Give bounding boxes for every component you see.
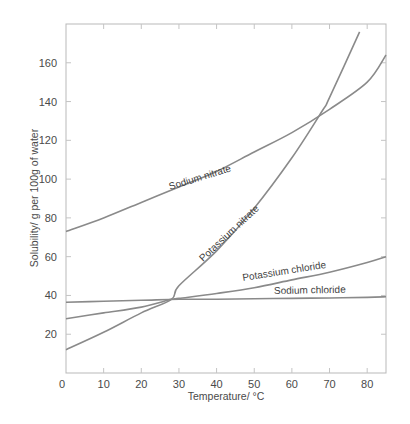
x-tick-label: 50 <box>248 378 260 390</box>
plot-border <box>66 24 386 373</box>
curves <box>66 32 386 350</box>
solubility-chart: 01020304050607080 20406080100120140160 T… <box>0 0 410 424</box>
x-tick-label: 60 <box>286 378 298 390</box>
label-potassium-chloride: Potassium chloride <box>242 259 328 283</box>
x-tick-label: 30 <box>173 378 185 390</box>
curve-potassium-nitrate <box>66 32 360 350</box>
y-tick-label: 80 <box>45 212 57 224</box>
y-tick-label: 120 <box>39 134 57 146</box>
y-axis-label: Solubility/ g per 100g of water <box>28 128 40 267</box>
x-tick-label: 0 <box>59 378 65 390</box>
x-axis-ticks: 01020304050607080 <box>59 24 373 390</box>
x-tick-label: 20 <box>135 378 147 390</box>
y-tick-label: 60 <box>45 251 57 263</box>
curve-sodium-nitrate <box>66 55 386 232</box>
x-axis-label: Temperature/ °C <box>188 390 265 402</box>
y-tick-label: 100 <box>39 173 57 185</box>
x-tick-label: 70 <box>323 378 335 390</box>
label-sodium-nitrate: Sodium nitrate <box>167 162 232 191</box>
y-tick-label: 20 <box>45 328 57 340</box>
label-potassium-nitrate: Potassium nitrate <box>197 202 261 263</box>
label-sodium-chloride: Sodium chloride <box>274 284 346 296</box>
curve-sodium-chloride <box>66 297 386 302</box>
y-tick-label: 160 <box>39 57 57 69</box>
plot-frame <box>66 24 386 373</box>
x-tick-label: 10 <box>98 378 110 390</box>
y-tick-label: 40 <box>45 289 57 301</box>
x-tick-label: 40 <box>210 378 222 390</box>
y-tick-label: 140 <box>39 96 57 108</box>
x-tick-label: 80 <box>361 378 373 390</box>
